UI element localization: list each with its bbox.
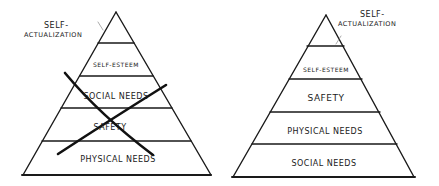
right-level-self-esteem: Self-Esteem bbox=[303, 67, 349, 73]
right-level-safety: Safety bbox=[308, 94, 345, 103]
left-level-safety: Safety bbox=[93, 124, 126, 132]
right-level-social-needs: Social Needs bbox=[291, 160, 356, 168]
right-apex-label-line2: Actualization bbox=[338, 21, 396, 28]
left-apex-label-line1: Self- bbox=[24, 22, 82, 30]
left-apex-label-line2: Actualization bbox=[24, 32, 82, 39]
left-apex-label: Self- Actualization bbox=[24, 22, 82, 39]
pyramid-comparison: Self- Actualization Self-Esteem Social N… bbox=[0, 0, 439, 186]
right-level-physical-needs: Physical Needs bbox=[287, 128, 363, 136]
right-apex-label-line1: Self- bbox=[338, 11, 396, 19]
left-level-social-needs: Social Needs bbox=[83, 93, 148, 101]
left-level-physical-needs: Physical Needs bbox=[80, 156, 156, 164]
left-level-self-esteem: Self-Esteem bbox=[93, 62, 139, 68]
cross-out-mark bbox=[58, 73, 166, 155]
right-apex-label: Self- Actualization bbox=[338, 11, 396, 28]
